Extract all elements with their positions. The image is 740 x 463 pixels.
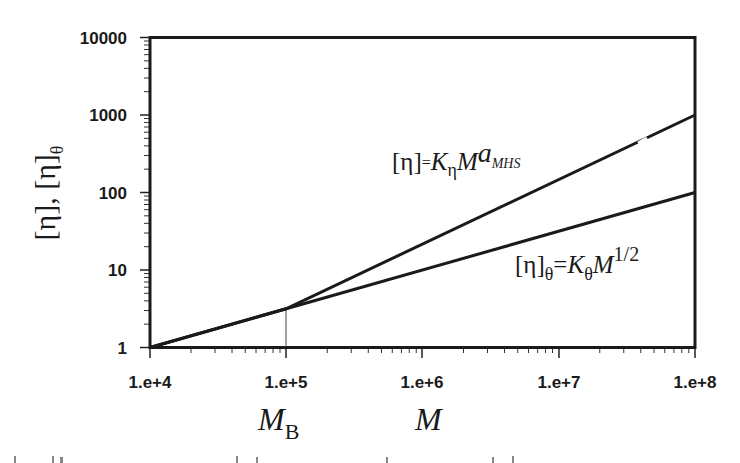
eq1-exponent-sub: MHS	[491, 156, 521, 171]
y-tick-1000: 1000	[89, 106, 127, 125]
x-axis-label-mb-sub: B	[285, 419, 300, 444]
x-tick-1e4: 1.e+4	[128, 373, 172, 392]
y-tick-labels: 10000 1000 100 10 1	[80, 29, 127, 358]
y-tick-100: 100	[99, 184, 127, 203]
y-axis-label-sub: θ	[47, 146, 67, 155]
eq2-sub: θ	[545, 264, 554, 284]
plot-frame	[150, 38, 695, 348]
x-tick-1e6: 1.e+6	[400, 373, 443, 392]
x-tick-1e5: 1.e+5	[264, 373, 307, 392]
y-tick-10000: 10000	[80, 29, 127, 48]
eq2-exponent: 1/2	[614, 243, 640, 265]
eq1-k-sub: η	[447, 160, 456, 180]
cropped-caption-marks	[0, 452, 740, 463]
eq2-k-sub: θ	[584, 264, 593, 284]
eq1-exponent: a	[478, 137, 492, 168]
y-axis-label: [η], [η]θ	[28, 146, 67, 241]
x-tick-1e7: 1.e+7	[537, 373, 580, 392]
x-axis-label-mb: MB	[257, 401, 299, 444]
svg-text:[η], [η]θ: [η], [η]θ	[28, 146, 67, 241]
eq2-k: K	[566, 251, 585, 278]
x-axis-label-m: M	[414, 401, 444, 437]
eq1-equals: =	[422, 154, 431, 171]
x-tick-1e8: 1.e+8	[673, 373, 716, 392]
equation-theta: [η]θ=KθM1/2	[515, 243, 639, 284]
eq1-k: K	[430, 148, 449, 175]
equation-mhs: [η]=KηMaMHS	[392, 137, 520, 180]
chart-canvas: 10000 1000 100 10 1 1.e+4 1.e+5 1.e+6 1.…	[0, 0, 740, 463]
x-tick-labels: 1.e+4 1.e+5 1.e+6 1.e+7 1.e+8	[128, 373, 716, 392]
series-mhs-line	[150, 115, 695, 348]
y-tick-1: 1	[118, 339, 127, 358]
y-tick-10: 10	[108, 261, 127, 280]
y-axis-label-main: [η], [η]	[28, 154, 61, 240]
x-axis-label-mb-main: M	[257, 401, 287, 437]
eq2-equals: =	[553, 251, 567, 278]
eq1-m: M	[456, 148, 479, 175]
eq2-m: M	[592, 251, 615, 278]
eq2-bracket: [η]	[515, 251, 545, 278]
eq1-bracket: [η]	[392, 148, 422, 175]
